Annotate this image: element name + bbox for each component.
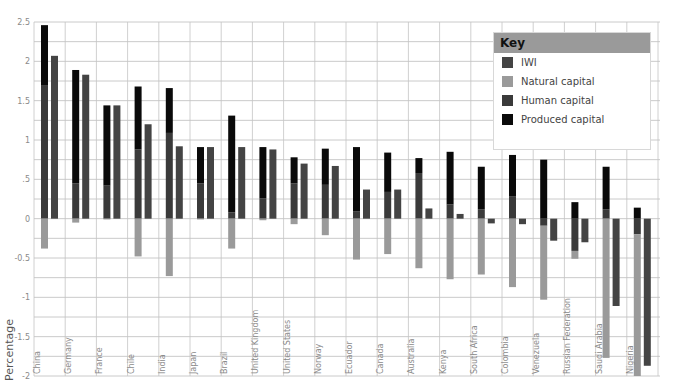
bar-natural-capital [478,219,485,275]
bar-human-capital [478,209,485,218]
bar-natural-capital [228,219,235,249]
bar-human-capital [41,86,48,219]
x-tick-label: Venezuela [532,333,541,374]
x-tick-label: Russian Federation [563,298,572,374]
bar-iwi [51,56,58,219]
bar-human-capital [571,219,578,251]
x-tick-label: Saudi Arabia [595,323,604,374]
bar-iwi [363,190,370,219]
legend-item-human-capital: Human capital [494,91,650,110]
legend-label: Produced capital [521,114,604,125]
bar-iwi [301,164,308,219]
bar-natural-capital [72,219,79,223]
bar-iwi [550,219,557,241]
bar-natural-capital [415,219,422,269]
legend-swatch-natural-capital [502,76,513,87]
bar-produced-capital [41,25,48,86]
bar-produced-capital [634,208,641,219]
legend-label: Human capital [521,95,594,106]
bar-natural-capital [634,234,641,376]
bar-produced-capital [603,167,610,209]
bar-produced-capital [353,147,360,212]
bar-human-capital [634,219,641,235]
bar-produced-capital [103,105,110,185]
x-tick-label: Australia [407,339,416,374]
x-tick-label: South Africa [470,325,479,374]
x-tick-label: Nigeria [626,345,635,374]
bar-natural-capital [447,219,454,280]
bar-produced-capital [571,202,578,219]
bar-human-capital [415,173,422,219]
bar-human-capital [72,183,79,218]
bar-natural-capital [540,226,547,300]
y-axis-ticks: 2.521.51.50-0.5-1-1.5-2 [14,18,30,381]
bar-iwi [581,219,588,243]
bar-produced-capital [291,157,298,183]
legend-item-iwi: IWI [494,53,650,72]
y-tick-label: -1 [22,293,30,302]
bar-human-capital [384,192,391,219]
bar-iwi [269,149,276,218]
bar-human-capital [447,205,454,219]
bar-iwi [82,75,89,219]
bar-iwi [145,124,152,218]
x-tick-label: Germany [64,337,73,374]
bar-iwi [238,147,245,219]
x-tick-label: India [158,354,167,374]
bar-produced-capital [72,70,79,183]
bar-produced-capital [259,147,266,198]
x-tick-label: United Kingdom [251,310,260,374]
bar-human-capital [197,183,204,218]
x-tick-label: Kenya [439,349,448,374]
legend-swatch-iwi [502,57,513,68]
bar-produced-capital [540,160,547,219]
bar-natural-capital [291,219,298,225]
legend-item-natural-capital: Natural capital [494,72,650,91]
bar-human-capital [135,149,142,218]
y-axis-label: Percentage [3,319,16,381]
bar-produced-capital [415,158,422,173]
bar-iwi [207,147,214,219]
bar-natural-capital [509,219,516,287]
y-tick-label: 2 [25,57,30,66]
y-tick-label: .5 [22,175,30,184]
bar-human-capital [353,212,360,219]
y-tick-label: -0.5 [14,254,30,263]
bar-iwi [113,105,120,218]
bar-produced-capital [197,147,204,183]
bar-natural-capital [259,219,266,221]
bar-iwi [332,166,339,219]
legend-label: IWI [521,57,537,68]
y-tick-label: 2.5 [17,18,30,27]
x-tick-label: Ecuador [345,341,354,374]
legend-item-produced-capital: Produced capital [494,110,650,129]
bar-natural-capital [41,219,48,249]
bar-produced-capital [509,155,516,197]
legend-title: Key [494,33,650,53]
y-tick-label: -1.5 [14,333,30,342]
bar-natural-capital [322,219,329,236]
y-tick-label: 1.5 [17,97,30,106]
bar-human-capital [228,212,235,218]
bar-iwi [613,219,620,306]
legend-label: Natural capital [521,76,595,87]
bar-iwi [457,214,464,219]
bar-natural-capital [571,251,578,259]
bar-human-capital [103,186,110,219]
x-tick-label: China [33,351,42,374]
bar-human-capital [509,197,516,219]
bar-human-capital [291,183,298,218]
bar-produced-capital [478,167,485,209]
bar-iwi [644,219,651,366]
x-tick-label: France [95,347,104,374]
legend-swatch-human-capital [502,95,513,106]
x-tick-label: Japan [189,352,198,375]
y-tick-label: -2 [22,372,30,381]
bar-human-capital [166,133,173,219]
bar-produced-capital [135,87,142,150]
bar-produced-capital [322,149,329,185]
bar-iwi [519,219,526,225]
bar-human-capital [322,185,329,219]
bar-natural-capital [384,219,391,254]
bar-natural-capital [166,219,173,276]
